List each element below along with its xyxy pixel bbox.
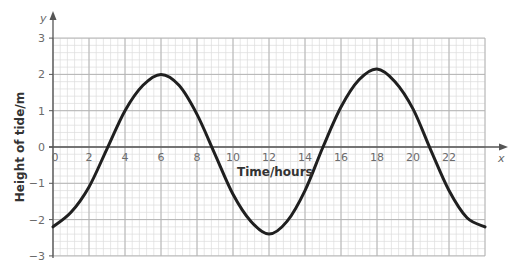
- x-tick-label: 0: [52, 151, 59, 164]
- y-tick-label: −3: [29, 250, 45, 263]
- x-tick-label: 12: [262, 151, 276, 164]
- y-tick-label: 1: [38, 105, 45, 118]
- y-tick-label: 0: [38, 141, 45, 154]
- y-axis-label: Height of tide/m: [13, 92, 27, 202]
- tide-chart: 02468101214161820223210−1−2−3 x y Time/h…: [0, 0, 521, 270]
- x-tick-label: 20: [406, 151, 420, 164]
- x-tick-label: 8: [194, 151, 201, 164]
- x-tick-label: 10: [226, 151, 240, 164]
- x-tick-label: 22: [442, 151, 456, 164]
- x-tick-label: 2: [86, 151, 93, 164]
- y-axis-name: y: [39, 12, 47, 25]
- y-tick-label: 2: [38, 68, 45, 81]
- y-tick-label: −2: [29, 214, 45, 227]
- x-tick-label: 6: [158, 151, 165, 164]
- x-tick-label: 18: [370, 151, 384, 164]
- y-tick-label: 3: [38, 32, 45, 45]
- x-tick-label: 16: [334, 151, 348, 164]
- x-axis-label: Time/hours: [237, 165, 313, 179]
- x-tick-label: 4: [122, 151, 129, 164]
- x-axis-name: x: [497, 152, 505, 165]
- y-tick-label: −1: [29, 177, 45, 190]
- x-tick-label: 14: [298, 151, 312, 164]
